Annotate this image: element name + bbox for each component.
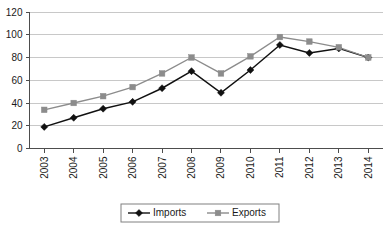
y-tick-label: 120 xyxy=(6,7,23,18)
chart-legend: ImportsExports xyxy=(121,204,279,222)
x-tick-label: 2003 xyxy=(39,156,50,179)
data-point-diamond xyxy=(41,123,48,130)
x-tick-label: 2012 xyxy=(304,156,315,179)
data-point-square xyxy=(71,100,77,106)
x-tick-label: 2005 xyxy=(98,156,109,179)
y-tick-label: 100 xyxy=(6,29,23,40)
chart-canvas: 020406080100120 200320042005200620072008… xyxy=(0,0,390,231)
data-point-diamond xyxy=(159,85,166,92)
x-tick-label: 2009 xyxy=(215,156,226,179)
series-exports xyxy=(41,34,371,112)
gridlines xyxy=(30,12,384,126)
x-tick-label: 2004 xyxy=(68,156,79,179)
data-point-diamond xyxy=(306,49,313,56)
y-tick-label: 60 xyxy=(11,75,23,86)
data-point-diamond xyxy=(129,98,136,105)
x-tick-label: 2011 xyxy=(274,156,285,178)
y-tick-label: 0 xyxy=(17,143,23,154)
data-point-square xyxy=(100,93,106,99)
x-axis-ticks xyxy=(44,149,368,153)
line-chart: 020406080100120 200320042005200620072008… xyxy=(0,0,390,231)
data-point-square xyxy=(189,55,195,61)
x-tick-label: 2007 xyxy=(157,156,168,179)
x-tick-label: 2006 xyxy=(127,156,138,179)
data-point-square xyxy=(159,71,165,77)
data-point-square xyxy=(307,39,313,45)
y-axis-tick-labels: 020406080100120 xyxy=(6,7,23,155)
x-axis-tick-labels: 2003200420052006200720082009201020112012… xyxy=(39,156,374,179)
x-tick-label: 2008 xyxy=(186,156,197,179)
data-point-square xyxy=(277,34,283,40)
y-tick-label: 80 xyxy=(11,52,23,63)
x-tick-label: 2010 xyxy=(245,156,256,179)
data-point-square xyxy=(248,54,254,60)
data-point-square xyxy=(41,107,47,113)
data-point-diamond xyxy=(100,105,107,112)
x-tick-label: 2013 xyxy=(333,156,344,179)
y-tick-label: 40 xyxy=(11,98,23,109)
x-tick-label: 2014 xyxy=(363,156,374,179)
y-tick-label: 20 xyxy=(11,120,23,131)
legend-label-exports: Exports xyxy=(232,207,266,218)
data-point-square xyxy=(130,84,136,90)
data-point-diamond xyxy=(70,114,77,121)
data-point-square xyxy=(218,71,224,77)
series-imports xyxy=(41,41,372,130)
data-point-square xyxy=(215,210,221,216)
data-point-square xyxy=(365,55,371,61)
legend-label-imports: Imports xyxy=(153,207,186,218)
data-series xyxy=(41,34,372,130)
series-line xyxy=(44,37,368,110)
data-point-square xyxy=(336,44,342,50)
